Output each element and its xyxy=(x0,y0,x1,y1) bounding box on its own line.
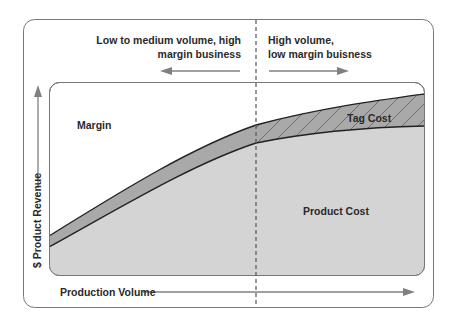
x-axis-label: Production Volume xyxy=(60,286,156,298)
left-region-label-line2: margin business xyxy=(158,48,242,60)
right-region-label-line1: High volume, xyxy=(268,34,334,46)
y-axis-label: $ Product Revenue xyxy=(31,173,43,268)
left-region-label-line1: Low to medium volume, high xyxy=(96,34,241,46)
product-cost-label: Product Cost xyxy=(303,205,369,217)
tag-cost-label: Tag Cost xyxy=(347,112,392,124)
right-region-label-line2: low margin buisness xyxy=(268,48,372,60)
margin-label: Margin xyxy=(77,119,111,131)
cost-revenue-diagram: Low to medium volume, high margin busine… xyxy=(0,0,453,327)
